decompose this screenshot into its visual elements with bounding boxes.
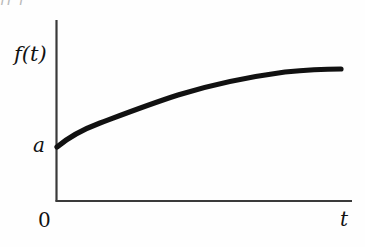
origin-label: 0 [38, 208, 51, 232]
intercept-label: a [33, 133, 45, 157]
y-axis-label: f(t) [14, 42, 47, 66]
x-axis-label: t [340, 207, 348, 231]
figure-container: ff f f(t) a 0 t [0, 0, 365, 247]
growth-curve [57, 69, 341, 147]
plot-area [0, 0, 365, 247]
